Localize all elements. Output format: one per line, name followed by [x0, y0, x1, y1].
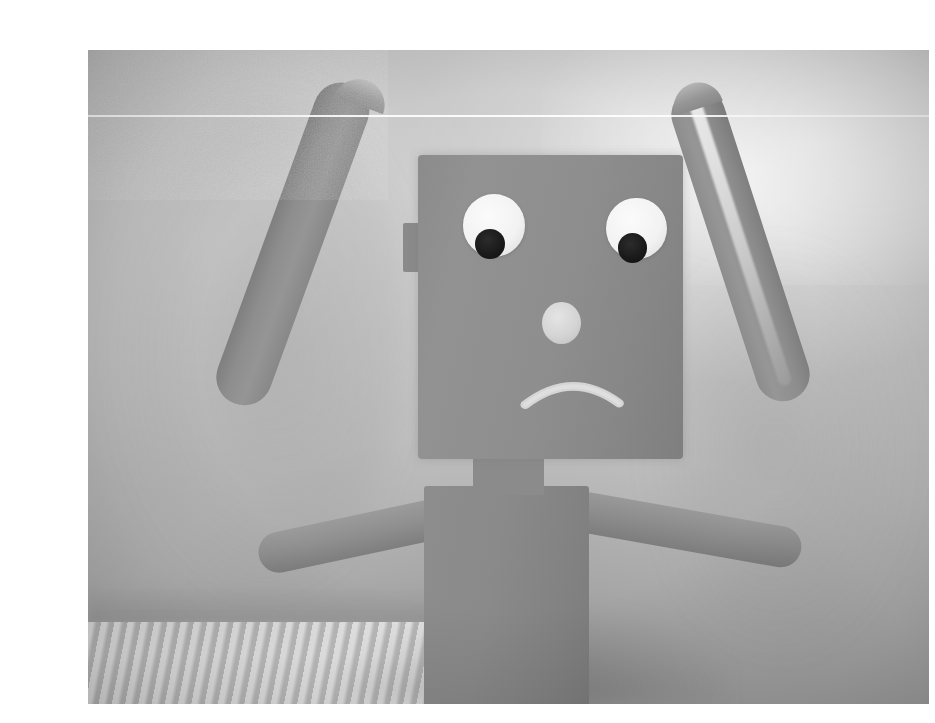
scan-line-artifact	[88, 115, 929, 117]
right-eye-pupil	[618, 233, 647, 262]
toy-robot	[88, 50, 929, 704]
page-canvas: Close-up grayscale photograph of a small…	[0, 0, 935, 723]
mouth-frown	[520, 364, 624, 411]
nose	[542, 302, 581, 344]
toy-robot-photo	[88, 50, 929, 704]
torso	[424, 486, 589, 704]
